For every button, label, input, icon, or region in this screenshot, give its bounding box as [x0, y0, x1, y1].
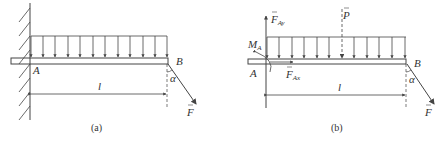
label-length: l — [98, 80, 101, 92]
label-p: P — [342, 9, 350, 21]
figure-a — [11, 3, 196, 120]
label-fax: FAx — [285, 68, 301, 82]
moment-arrow — [256, 52, 271, 72]
beam-diagrams: A B l α F (a) — [0, 0, 443, 147]
distributed-load — [31, 36, 167, 57]
label-angle: α — [170, 72, 176, 84]
angle-arc — [406, 70, 411, 72]
beam — [248, 59, 406, 64]
label-force: F — [424, 106, 432, 118]
label-force: F — [186, 106, 194, 118]
label-a: A — [32, 64, 40, 76]
figure-b-labels: A B l α F MA FAy FAx P (b) — [247, 8, 432, 134]
diagram-canvas: A B l α F (a) — [0, 0, 443, 147]
label-angle: α — [409, 73, 415, 85]
distributed-load — [267, 37, 406, 58]
label-b: B — [176, 55, 183, 67]
label-fay: FAy — [270, 13, 286, 27]
label-moment: MA — [247, 38, 262, 52]
label-b: B — [414, 57, 421, 69]
label-a: A — [249, 67, 257, 79]
caption-a: (a) — [91, 122, 102, 134]
caption-b: (b) — [331, 122, 343, 134]
label-length: l — [338, 81, 341, 93]
force-arrow — [168, 64, 196, 104]
